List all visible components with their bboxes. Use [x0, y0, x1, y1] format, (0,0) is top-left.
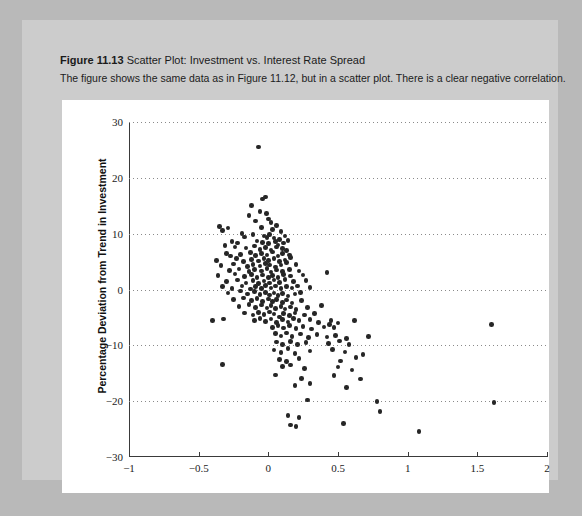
- scatter-point: [286, 413, 291, 418]
- scatter-point: [299, 376, 304, 381]
- scatter-point: [216, 273, 221, 278]
- scatter-point: [298, 290, 303, 295]
- scatter-point: [326, 341, 331, 346]
- scatter-point: [241, 259, 246, 264]
- scatter-point: [308, 349, 313, 354]
- scatter-point: [280, 251, 285, 256]
- scatter-point: [252, 267, 257, 272]
- scatter-point: [298, 332, 303, 337]
- scatter-point: [309, 327, 314, 332]
- x-tick-label: 1.5: [470, 462, 484, 474]
- scatter-point: [306, 335, 311, 340]
- scatter-point: [223, 243, 228, 248]
- scatter-point: [302, 313, 307, 318]
- scatter-point: [251, 313, 256, 318]
- figure-card: Figure 11.13 Scatter Plot: Investment vs…: [22, 20, 558, 480]
- scatter-point: [305, 398, 310, 403]
- scatter-point: [332, 325, 337, 330]
- scatter-point: [247, 213, 252, 218]
- scatter-point: [253, 253, 258, 258]
- scatter-point: [284, 331, 289, 336]
- scatter-point: [238, 289, 243, 294]
- scatter-point: [267, 281, 272, 286]
- scatter-point: [336, 365, 341, 370]
- gridline: [129, 401, 547, 402]
- scatter-point: [267, 232, 272, 237]
- scatter-point: [286, 238, 291, 243]
- scatter-point: [242, 235, 247, 240]
- scatter-point: [297, 318, 302, 323]
- scatter-point: [284, 260, 289, 265]
- x-tick-mark: [268, 452, 269, 457]
- scatter-point: [249, 257, 254, 262]
- scatter-point: [343, 350, 348, 355]
- scatter-point: [252, 318, 257, 323]
- scatter-point: [288, 363, 293, 368]
- scatter-point: [325, 335, 330, 340]
- scatter-point: [358, 377, 363, 382]
- scatter-point: [279, 350, 284, 355]
- scatter-point: [336, 321, 341, 326]
- scatter-point: [240, 284, 245, 289]
- scatter-point: [242, 311, 247, 316]
- scatter-point: [280, 291, 285, 296]
- scatter-point: [251, 262, 256, 267]
- scatter-point: [256, 310, 261, 315]
- scatter-point: [315, 332, 320, 337]
- scatter-point: [284, 298, 289, 303]
- scatter-point: [287, 267, 292, 272]
- x-tick-mark: [338, 452, 339, 457]
- scatter-point: [269, 220, 274, 225]
- scatter-point: [279, 286, 284, 291]
- scatter-point: [253, 219, 258, 224]
- scatter-point: [260, 240, 265, 245]
- scatter-point: [230, 239, 235, 244]
- scatter-point: [274, 297, 279, 302]
- scatter-point: [272, 348, 277, 353]
- gridline: [129, 290, 547, 291]
- scatter-point: [237, 304, 242, 309]
- scatter-point: [347, 342, 352, 347]
- scatter-point: [255, 239, 260, 244]
- gridline: [129, 234, 547, 235]
- scatter-point: [244, 281, 249, 286]
- figure-page: Figure 11.13 Scatter Plot: Investment vs…: [0, 0, 582, 516]
- scatter-point: [272, 312, 277, 317]
- scatter-point: [301, 324, 306, 329]
- scatter-point: [258, 209, 263, 214]
- scatter-point: [276, 275, 281, 280]
- scatter-point: [252, 244, 257, 249]
- scatter-point: [274, 245, 279, 250]
- scatter-point: [238, 252, 243, 257]
- scatter-point: [375, 399, 380, 404]
- scatter-point: [234, 256, 239, 261]
- scatter-point: [228, 254, 233, 259]
- scatter-point: [263, 319, 268, 324]
- chart-axes: −30−20−100102030 −1−0.500.511.52: [129, 122, 547, 457]
- scatter-point: [308, 317, 313, 322]
- scatter-point: [231, 297, 236, 302]
- scatter-point: [297, 356, 302, 361]
- figure-description: The figure shows the same data as in Fig…: [60, 71, 560, 86]
- scatter-point: [286, 346, 291, 351]
- scatter-point: [241, 296, 246, 301]
- figure-title: Scatter Plot: Investment vs. Interest Ra…: [127, 54, 365, 66]
- scatter-point: [294, 326, 299, 331]
- y-tick-label: −20: [106, 395, 123, 407]
- scatter-point: [319, 303, 324, 308]
- scatter-point: [316, 320, 321, 325]
- scatter-point: [288, 423, 293, 428]
- scatter-point: [269, 317, 274, 322]
- scatter-point: [297, 415, 302, 420]
- scatter-point: [305, 305, 310, 310]
- scatter-point: [277, 280, 282, 285]
- scatter-point: [272, 278, 277, 283]
- scatter-point: [344, 336, 349, 341]
- scatter-point: [249, 203, 254, 208]
- scatter-point: [273, 373, 278, 378]
- scatter-point: [280, 317, 285, 322]
- scatter-point: [293, 311, 298, 316]
- scatter-point: [352, 318, 357, 323]
- scatter-point: [361, 352, 366, 357]
- scatter-point: [260, 273, 265, 278]
